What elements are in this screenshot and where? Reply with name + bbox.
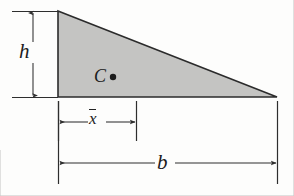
right-triangle-shape: [58, 11, 277, 97]
scan-edge-left: [0, 150, 1, 196]
height-dimension-label: h: [19, 41, 30, 62]
centroid-label: C: [94, 67, 106, 85]
xbar-overbar: [89, 109, 96, 110]
centroid-dot-marker: [110, 74, 116, 80]
triangle-centroid-figure: h C x b: [0, 0, 294, 196]
base-dimension-label: b: [157, 152, 168, 173]
scan-edge-bottom: [0, 195, 294, 196]
figure-canvas: [0, 0, 294, 196]
scan-edge-right: [293, 0, 294, 196]
xbar-letter: x: [89, 109, 97, 128]
centroid-distance-label: x: [89, 108, 97, 127]
